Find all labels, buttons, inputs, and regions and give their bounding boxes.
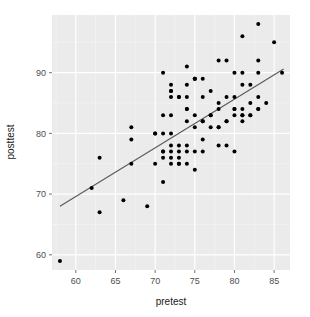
data-point: [201, 95, 205, 99]
y-tick-label: 70: [36, 189, 46, 199]
data-point: [98, 210, 102, 214]
data-point: [256, 107, 260, 111]
data-point: [169, 156, 173, 160]
chart-canvas: 606570758085 60708090 pretest posttest: [0, 0, 310, 317]
data-point: [256, 59, 260, 63]
data-point: [193, 77, 197, 81]
data-point: [209, 125, 213, 129]
data-point: [153, 131, 157, 135]
data-point: [161, 113, 165, 117]
data-point: [185, 107, 189, 111]
data-point: [90, 186, 94, 190]
data-point: [209, 89, 213, 93]
data-point: [177, 156, 181, 160]
data-point: [201, 150, 205, 154]
data-point: [177, 162, 181, 166]
data-point: [169, 83, 173, 87]
data-point: [129, 125, 133, 129]
data-point: [201, 119, 205, 123]
data-point: [217, 101, 221, 105]
data-point: [169, 162, 173, 166]
data-point: [240, 119, 244, 123]
data-point: [232, 113, 236, 117]
data-point: [98, 156, 102, 160]
data-point: [272, 40, 276, 44]
data-point: [121, 198, 125, 202]
data-point: [225, 95, 229, 99]
data-point: [177, 150, 181, 154]
data-point: [225, 119, 229, 123]
data-point: [185, 144, 189, 148]
data-point: [240, 71, 244, 75]
y-tick-label: 80: [36, 129, 46, 139]
data-point: [217, 144, 221, 148]
data-point: [129, 162, 133, 166]
data-point: [201, 77, 205, 81]
data-point: [240, 83, 244, 87]
data-point: [193, 150, 197, 154]
y-axis-title: posttest: [5, 124, 16, 159]
data-point: [161, 156, 165, 160]
data-point: [280, 71, 284, 75]
x-axis-title: pretest: [156, 296, 187, 307]
data-point: [256, 95, 260, 99]
data-point: [185, 95, 189, 99]
data-point: [193, 125, 197, 129]
x-tick-label: 70: [150, 276, 160, 286]
y-tick-label: 60: [36, 250, 46, 260]
data-point: [185, 65, 189, 69]
data-point: [145, 204, 149, 208]
data-point: [161, 131, 165, 135]
data-point: [225, 144, 229, 148]
x-tick-label: 80: [229, 276, 239, 286]
data-point: [217, 125, 221, 129]
data-point: [58, 259, 62, 263]
data-point: [161, 150, 165, 154]
data-point: [232, 150, 236, 154]
data-point: [248, 83, 252, 87]
x-tick-label: 85: [269, 276, 279, 286]
data-point: [240, 113, 244, 117]
data-point: [217, 107, 221, 111]
data-point: [256, 71, 260, 75]
data-point: [169, 95, 173, 99]
data-point: [161, 180, 165, 184]
data-point: [185, 150, 189, 154]
data-point: [169, 150, 173, 154]
data-point: [169, 131, 173, 135]
scatter-plot-figure: 606570758085 60708090 pretest posttest: [0, 0, 310, 317]
data-point: [209, 113, 213, 117]
data-point: [177, 144, 181, 148]
x-tick-label: 60: [71, 276, 81, 286]
data-point: [153, 162, 157, 166]
data-point: [169, 89, 173, 93]
x-tick-label: 65: [110, 276, 120, 286]
data-point: [264, 101, 268, 105]
data-point: [248, 101, 252, 105]
data-point: [232, 107, 236, 111]
data-point: [161, 71, 165, 75]
data-point: [169, 144, 173, 148]
x-tick-label: 75: [190, 276, 200, 286]
data-point: [217, 59, 221, 63]
data-point: [177, 95, 181, 99]
data-point: [232, 71, 236, 75]
data-point: [129, 137, 133, 141]
data-point: [185, 162, 189, 166]
data-point: [185, 83, 189, 87]
data-point: [193, 113, 197, 117]
data-point: [240, 107, 244, 111]
data-point: [248, 113, 252, 117]
data-point: [193, 168, 197, 172]
data-point: [201, 137, 205, 141]
data-point: [232, 95, 236, 99]
data-point: [240, 34, 244, 38]
data-point: [185, 119, 189, 123]
data-point: [256, 22, 260, 26]
data-point: [169, 113, 173, 117]
y-tick-label: 90: [36, 68, 46, 78]
data-point: [225, 59, 229, 63]
